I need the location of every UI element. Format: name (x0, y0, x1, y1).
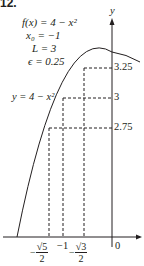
x-tick-neg-sqrt3-over-2: − √3 2 (69, 241, 87, 264)
curve-label: y = 4 − x² (12, 91, 54, 102)
y-tick-2-75: 2.75 (114, 121, 132, 132)
y-axis-arrow-icon (110, 18, 115, 25)
y-axis-label: y (110, 5, 115, 16)
origin-label: 0 (115, 240, 120, 251)
x-tick-neg-1: −1 (57, 240, 68, 251)
y-tick-3: 3 (114, 91, 119, 102)
y-tick-3-25: 3.25 (114, 61, 132, 72)
graph (0, 0, 144, 266)
x-axis-arrow-icon (136, 235, 142, 240)
x-tick-neg-sqrt5-over-2: − √5 2 (30, 241, 48, 264)
parabola-curve (17, 48, 140, 237)
